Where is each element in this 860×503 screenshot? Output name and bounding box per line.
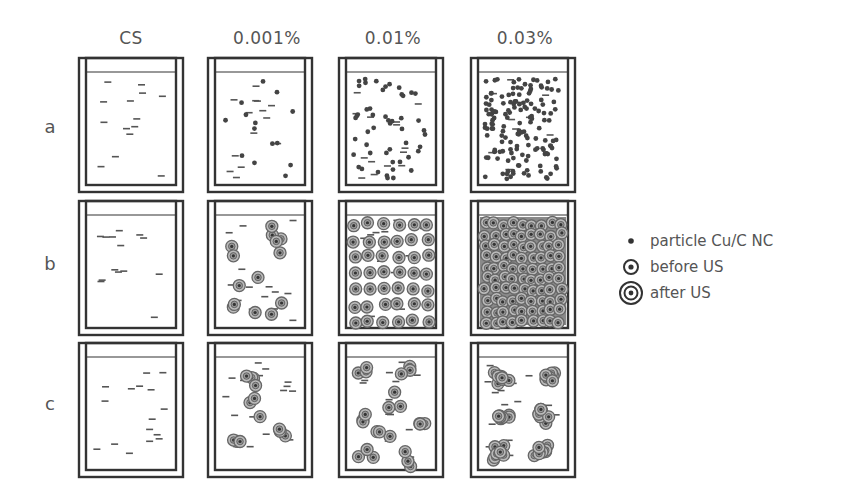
single-ring-icon [616, 257, 646, 277]
beaker-c-2 [339, 343, 443, 477]
beaker-a-2 [339, 58, 443, 192]
legend-item-after-us: after US [616, 280, 773, 306]
beaker-c-0 [79, 343, 183, 477]
beaker-c-1 [208, 343, 312, 477]
legend-item-particle: particle Cu/C NC [616, 228, 773, 254]
legend: particle Cu/C NC before US after US [616, 228, 773, 306]
beaker-b-0 [79, 201, 183, 335]
beaker-a-3 [471, 58, 575, 192]
beaker-b-1 [208, 201, 312, 335]
legend-label: before US [650, 258, 724, 276]
legend-item-before-us: before US [616, 254, 773, 280]
beaker-c-3 [471, 343, 575, 477]
beaker-a-0 [79, 58, 183, 192]
beaker-a-1 [208, 58, 312, 192]
double-ring-icon [616, 280, 646, 306]
beaker-b-2 [339, 201, 443, 335]
legend-label: particle Cu/C NC [650, 232, 773, 250]
dot-icon [616, 234, 646, 248]
legend-label: after US [650, 284, 711, 302]
beaker-b-3 [471, 201, 575, 335]
